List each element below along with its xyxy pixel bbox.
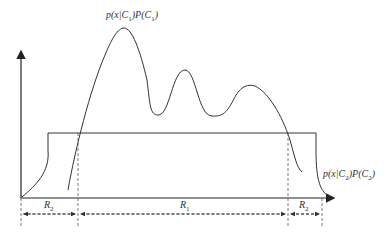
curve-c1-label: p(x|C1)P(C1) xyxy=(106,9,158,23)
region-r2-right-label: R2 xyxy=(299,199,309,213)
decision-region-diagram xyxy=(0,0,389,241)
region-r1-label: R1 xyxy=(180,199,190,213)
region-r2-left-label: R2 xyxy=(44,199,54,213)
curve-c2-label: p(x|C2)P(C2) xyxy=(323,168,375,182)
curve-c1 xyxy=(68,28,302,190)
